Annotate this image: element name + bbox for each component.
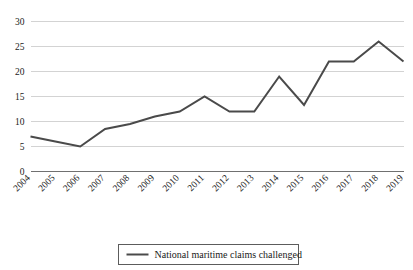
- y-axis-tick-label: 15: [15, 92, 25, 102]
- line-chart: 051015202530 200420052006200720082009201…: [0, 0, 413, 270]
- legend-entry-label: National maritime claims challenged: [155, 249, 302, 260]
- y-axis-tick-label: 30: [15, 17, 25, 27]
- chart-canvas: 051015202530 200420052006200720082009201…: [0, 0, 413, 270]
- chart-background: [0, 0, 413, 270]
- y-axis-tick-label: 10: [15, 117, 25, 127]
- y-axis-tick-label: 25: [15, 42, 25, 52]
- y-axis-tick-label: 20: [15, 67, 25, 77]
- y-axis-tick-label: 5: [20, 142, 25, 152]
